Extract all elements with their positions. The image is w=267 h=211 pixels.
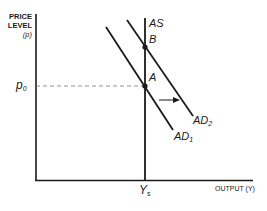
ad-as-diagram: [0, 0, 267, 211]
shift-arrow-icon: [159, 97, 180, 103]
ad2-label: AD2: [193, 114, 212, 127]
ys-label-sub: s: [147, 190, 151, 197]
p0-label-sub: 0: [23, 85, 27, 92]
x-axis-title: OUTPUT (Y): [215, 185, 255, 192]
point-a-label: A: [149, 71, 156, 83]
ad2-label-main: AD: [193, 114, 208, 126]
ad1-label-sub: 1: [189, 136, 193, 143]
ad1-label: AD1: [174, 130, 193, 143]
ad2-label-sub: 2: [208, 120, 212, 127]
y-axis-title-line3: (p): [8, 30, 32, 39]
ys-label-main: Y: [139, 183, 147, 197]
y-axis-title-line2: LEVEL: [8, 21, 32, 30]
point-b: [142, 44, 147, 49]
point-b-label: B: [149, 33, 156, 45]
y-axis-title-line1: PRICE: [8, 12, 32, 21]
ad2-curve: [127, 20, 193, 116]
as-label: AS: [149, 17, 164, 29]
ad1-curve: [106, 27, 173, 130]
p0-label-main: p: [16, 78, 23, 92]
y-axis-title: PRICE LEVEL (p): [8, 12, 32, 39]
ys-label: Ys: [139, 183, 151, 197]
ad1-label-main: AD: [174, 130, 189, 142]
point-a: [142, 83, 147, 88]
p0-label: p0: [16, 78, 27, 92]
